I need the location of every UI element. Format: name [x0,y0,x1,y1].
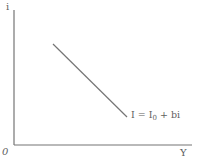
equation-before-subscript: I = I [131,109,153,120]
diagram-svg [0,0,201,167]
y-axis-label: i [6,2,9,12]
curve-equation-label: I = I0 + bi [131,110,180,120]
origin-label: 0 [2,147,8,157]
x-axis-label: Y [180,148,187,158]
diagram-canvas: i 0 Y I = I0 + bi [0,0,201,167]
equation-after-subscript: + bi [157,109,180,120]
investment-curve-line [53,44,127,117]
